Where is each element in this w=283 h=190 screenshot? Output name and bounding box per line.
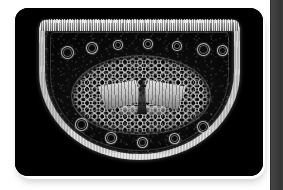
viewer-root xyxy=(0,0,283,190)
vascular-bundle xyxy=(86,42,98,54)
micrograph-canvas[interactable] xyxy=(15,8,263,176)
vascular-bundle xyxy=(217,45,228,56)
vascular-bundle xyxy=(143,39,153,49)
image-plate[interactable] xyxy=(15,8,263,176)
vascular-bundle xyxy=(61,46,74,59)
epidermis-crest xyxy=(46,19,234,23)
specimen-cross-section xyxy=(39,20,240,160)
vascular-bundle xyxy=(169,133,180,144)
vascular-bundle xyxy=(137,137,148,148)
scrollbar-thumb[interactable] xyxy=(271,0,282,190)
vascular-bundle xyxy=(75,118,88,131)
vertical-scrollbar[interactable] xyxy=(270,0,283,190)
vascular-bundle xyxy=(113,40,123,50)
vascular-bundle xyxy=(197,43,210,56)
xylem-core xyxy=(98,80,186,112)
vascular-bundle xyxy=(105,132,117,144)
vascular-cylinder xyxy=(71,55,211,135)
vascular-bundle xyxy=(172,41,182,51)
epidermis-top-band xyxy=(40,20,239,31)
vascular-bundle xyxy=(197,121,209,133)
